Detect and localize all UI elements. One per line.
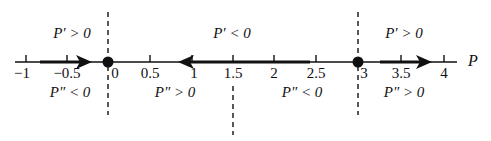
tick-label: 1 <box>190 66 198 81</box>
region-label-first-derivative: P′ > 0 <box>53 26 91 41</box>
tick-label: 2 <box>270 66 278 81</box>
region-label-second-derivative: P″ > 0 <box>155 85 196 100</box>
region-label-second-derivative: P″ > 0 <box>384 85 425 100</box>
tick-label: 3 <box>360 66 368 81</box>
region-label-second-derivative: P″ < 0 <box>282 85 323 100</box>
tick-label: −1 <box>14 66 30 81</box>
region-label-second-derivative: P″ < 0 <box>50 85 91 100</box>
region-label-first-derivative: P′ < 0 <box>213 26 251 41</box>
tick-label: 0.5 <box>141 66 160 81</box>
region-label-first-derivative: P′ > 0 <box>385 26 423 41</box>
tick-label: 0 <box>111 66 119 81</box>
tick-label: 4 <box>440 66 448 81</box>
tick-label: 3.5 <box>392 66 411 81</box>
tick-label: 2.5 <box>307 66 326 81</box>
axis-label-p: P <box>468 53 478 68</box>
tick-label: −0.5 <box>53 66 80 81</box>
flow-arrow-middle-region <box>178 55 310 69</box>
tick-label: 1.5 <box>224 66 243 81</box>
